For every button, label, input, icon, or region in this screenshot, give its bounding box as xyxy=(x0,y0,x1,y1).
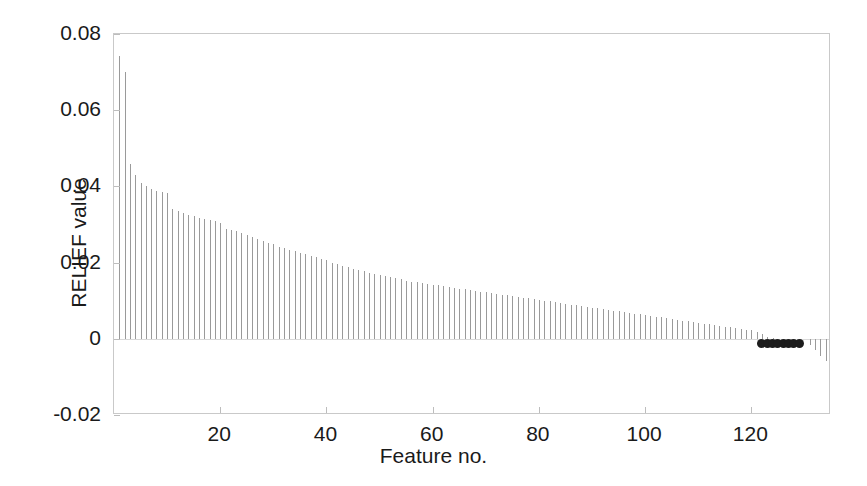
stem-bar xyxy=(544,301,545,339)
bars-layer xyxy=(114,34,829,413)
stem-bar xyxy=(571,305,572,339)
stem-bar xyxy=(141,183,142,339)
x-tick-mark xyxy=(645,407,646,413)
stem-bar xyxy=(512,296,513,339)
stem-bar xyxy=(693,322,694,339)
stem-bar xyxy=(518,297,519,339)
x-tick-mark xyxy=(433,407,434,413)
stem-bar xyxy=(757,332,758,339)
y-tick-mark xyxy=(114,415,120,416)
stem-bar xyxy=(735,328,736,339)
stem-bar xyxy=(645,315,646,339)
x-tick-label: 40 xyxy=(314,422,337,446)
zero-reference-line xyxy=(114,339,829,340)
stem-bar xyxy=(167,193,168,339)
stem-bar xyxy=(188,215,189,339)
stem-bar xyxy=(411,282,412,339)
stem-bar xyxy=(523,298,524,339)
stem-bar xyxy=(820,339,821,356)
stem-bar xyxy=(470,290,471,339)
y-tick-mark xyxy=(114,186,120,187)
stem-bar xyxy=(465,289,466,339)
highlight-marker-dot xyxy=(795,339,804,348)
stem-bar xyxy=(587,307,588,339)
stem-bar xyxy=(273,244,274,338)
stem-bar xyxy=(438,285,439,338)
x-tick-label: 120 xyxy=(733,422,768,446)
stem-bar xyxy=(220,223,221,339)
stem-bar xyxy=(592,308,593,339)
stem-bar xyxy=(624,312,625,339)
y-tick-mark xyxy=(114,339,120,340)
stem-bar xyxy=(257,239,258,339)
stem-bar xyxy=(751,330,752,338)
stem-bar xyxy=(496,294,497,339)
stem-bar xyxy=(677,320,678,339)
stem-bar xyxy=(263,241,264,339)
stem-bar xyxy=(560,303,561,339)
y-tick-label: 0.08 xyxy=(60,21,101,45)
x-tick-label: 100 xyxy=(627,422,662,446)
stem-bar xyxy=(194,216,195,339)
stem-bar xyxy=(422,283,423,339)
stem-bar xyxy=(656,317,657,339)
stem-bar xyxy=(406,281,407,339)
stem-bar xyxy=(491,293,492,339)
x-tick-mark xyxy=(326,407,327,413)
stem-bar xyxy=(401,279,402,338)
stem-bar xyxy=(454,288,455,339)
stem-bar xyxy=(629,313,630,339)
stem-bar xyxy=(374,274,375,339)
stem-bar xyxy=(459,289,460,339)
y-tick-label: -0.02 xyxy=(53,402,101,426)
stem-bar xyxy=(332,263,333,339)
stem-bar xyxy=(581,306,582,339)
stem-bar xyxy=(268,243,269,339)
stem-bar xyxy=(364,271,365,338)
stem-bar xyxy=(730,327,731,338)
y-tick-mark xyxy=(114,263,120,264)
stem-bar xyxy=(215,221,216,338)
stem-bar xyxy=(284,248,285,339)
stem-bar xyxy=(151,189,152,338)
stem-bar xyxy=(156,191,157,339)
stem-bar xyxy=(279,247,280,339)
stem-bar xyxy=(210,220,211,339)
stem-bar xyxy=(741,329,742,339)
stem-bar xyxy=(146,186,147,338)
stem-bar xyxy=(305,254,306,339)
stem-bar xyxy=(247,235,248,339)
stem-bar xyxy=(135,175,136,339)
stem-bar xyxy=(603,309,604,339)
stem-bar xyxy=(130,164,131,338)
stem-bar xyxy=(417,282,418,338)
stem-bar xyxy=(698,323,699,339)
stem-bar xyxy=(725,327,726,339)
plot-area xyxy=(113,33,830,414)
stem-bar xyxy=(241,233,242,339)
stem-bar xyxy=(449,287,450,339)
stem-bar xyxy=(380,275,381,339)
stem-bar xyxy=(395,278,396,339)
stem-bar xyxy=(619,311,620,338)
stem-bar xyxy=(613,311,614,339)
stem-bar xyxy=(704,324,705,339)
stem-bar xyxy=(337,264,338,339)
stem-bar xyxy=(507,295,508,338)
stem-bar xyxy=(815,339,816,350)
stem-bar xyxy=(385,276,386,339)
stem-bar xyxy=(199,218,200,339)
stem-bar xyxy=(183,213,184,339)
stem-bar xyxy=(650,316,651,339)
stem-bar xyxy=(555,302,556,339)
stem-bar xyxy=(353,269,354,339)
x-tick-mark xyxy=(539,407,540,413)
stem-bar xyxy=(666,318,667,339)
stem-bar xyxy=(369,273,370,339)
stem-bar xyxy=(480,292,481,339)
y-axis-title: RELIEF value xyxy=(67,178,91,308)
stem-bar xyxy=(326,260,327,338)
x-tick-mark xyxy=(220,407,221,413)
y-tick-label: 0.04 xyxy=(60,173,101,197)
stem-bar xyxy=(709,324,710,338)
